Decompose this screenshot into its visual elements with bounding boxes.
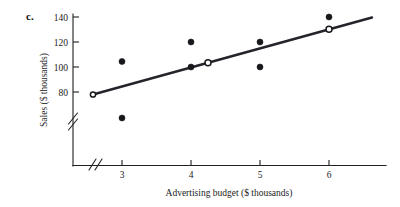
y-tick-label-120: 120 [54, 38, 69, 48]
plot-canvas: 140 120 100 80 3 4 5 6 [0, 0, 400, 207]
predicted-points [90, 26, 332, 97]
x-tick-label-6: 6 [327, 170, 332, 180]
x-axis-tick-labels: 3 4 5 6 [120, 170, 332, 180]
y-axis-title: Sales ($ thousands) [39, 53, 50, 127]
data-point [119, 115, 125, 121]
data-point [188, 39, 194, 45]
x-axis-break-icon [89, 159, 102, 170]
data-point [119, 59, 125, 65]
x-axis-title: Advertising budget ($ thousands) [166, 188, 293, 199]
data-point [188, 64, 194, 70]
data-point [326, 14, 332, 20]
x-tick-label-4: 4 [189, 170, 194, 180]
predicted-point [326, 26, 332, 32]
x-tick-label-5: 5 [258, 170, 263, 180]
y-axis-tick-labels: 140 120 100 80 [54, 13, 69, 98]
data-point [257, 39, 263, 45]
y-axis-ticks [73, 17, 79, 92]
predicted-point [205, 60, 211, 66]
y-tick-label-80: 80 [59, 88, 69, 98]
x-tick-label-3: 3 [120, 170, 125, 180]
predicted-point [90, 92, 95, 97]
y-tick-label-140: 140 [54, 13, 69, 23]
data-point [257, 64, 263, 70]
y-tick-label-100: 100 [54, 63, 69, 73]
data-points [119, 14, 332, 121]
scatter-plot-figure: c. 140 120 100 80 [0, 0, 400, 207]
